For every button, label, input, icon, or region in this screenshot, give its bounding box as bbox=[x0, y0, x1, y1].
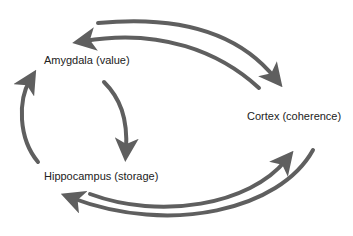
node-cortex-label: Cortex (coherence) bbox=[247, 110, 341, 123]
node-amygdala-label: Amygdala (value) bbox=[44, 54, 130, 67]
node-hippocampus-label: Hippocampus (storage) bbox=[44, 170, 158, 183]
edge-hippocampus-to-amygdala bbox=[22, 80, 38, 162]
brain-loop-diagram: Amygdala (value) Cortex (coherence) Hipp… bbox=[0, 0, 353, 236]
edge-amygdala-to-hippocampus bbox=[104, 82, 126, 150]
edge-amygdala-to-cortex bbox=[98, 21, 275, 78]
